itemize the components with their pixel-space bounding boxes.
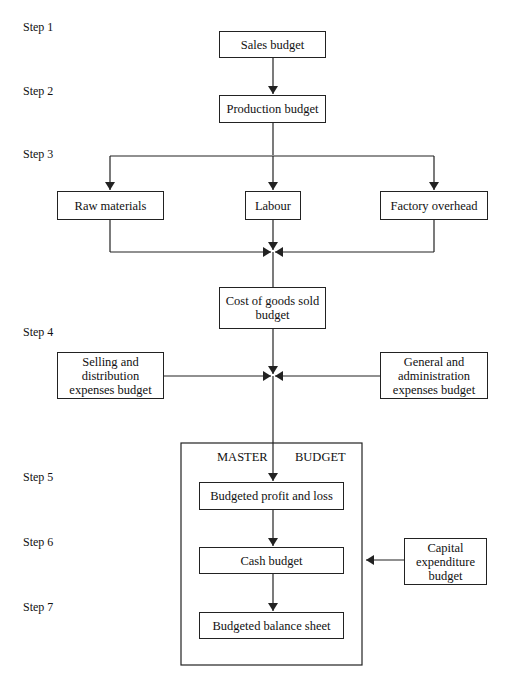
cash-budget-node: Cash budget bbox=[199, 547, 344, 574]
labour-node: Labour bbox=[245, 191, 301, 220]
profit-loss-node: Budgeted profit and loss bbox=[199, 482, 344, 510]
capex-node: Capital expenditure budget bbox=[404, 538, 487, 585]
general-admin-node: General and administration expenses budg… bbox=[380, 352, 488, 399]
production-budget-node: Production budget bbox=[219, 95, 326, 123]
raw-materials-node: Raw materials bbox=[57, 191, 164, 220]
master-label: MASTER bbox=[217, 450, 268, 465]
cogs-budget-node: Cost of goods sold budget bbox=[219, 287, 326, 329]
factory-overhead-node: Factory overhead bbox=[380, 191, 488, 220]
selling-distribution-node: Selling and distribution expenses budget bbox=[57, 352, 164, 399]
balance-sheet-node: Budgeted balance sheet bbox=[199, 612, 344, 639]
sales-budget-node: Sales budget bbox=[219, 31, 326, 58]
budget-label: BUDGET bbox=[295, 450, 346, 465]
